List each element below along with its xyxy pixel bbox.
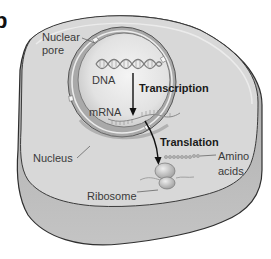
transcription-label: Transcription xyxy=(139,82,209,94)
nucleus-label: Nucleus xyxy=(33,152,73,164)
nuclear-pore-label-line2: pore xyxy=(42,44,64,56)
panel-letter: b xyxy=(0,8,7,34)
translation-label: Translation xyxy=(160,136,219,148)
mrna-label: mRNA xyxy=(89,106,121,118)
cell-diagram: b Nuclear pore DNA Transcription mRNA Tr… xyxy=(0,0,271,259)
dna-label: DNA xyxy=(92,74,115,86)
nuclear-pore-label-line1: Nuclear xyxy=(42,31,80,43)
amino-acids-label-line2: acids xyxy=(218,165,244,177)
ribosome-label: Ribosome xyxy=(87,190,137,202)
cell-illustration xyxy=(0,0,271,259)
amino-acids-label-line1: Amino xyxy=(218,150,249,162)
